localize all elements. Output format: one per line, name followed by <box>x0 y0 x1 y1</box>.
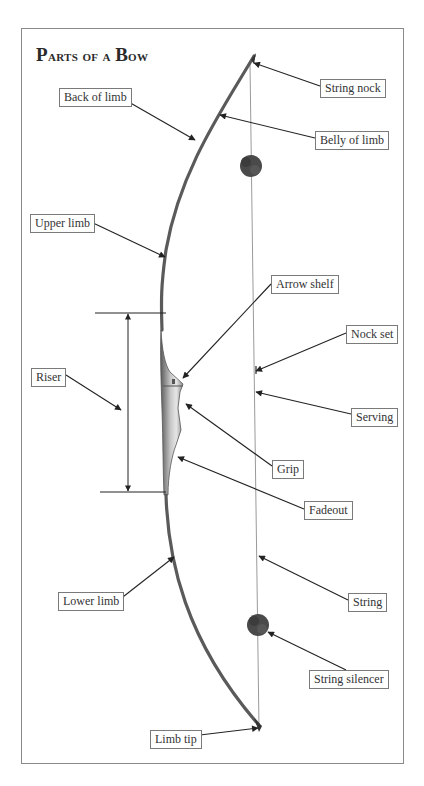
leader-serving <box>256 392 351 414</box>
label-grip: Grip <box>272 460 304 479</box>
label-string-silencer: String silencer <box>309 670 389 689</box>
leader-arrow-shelf <box>183 284 271 378</box>
label-string: String <box>348 593 387 612</box>
riser-span-indicator <box>95 313 166 492</box>
leader-string-nock <box>254 63 320 86</box>
arrow-rest-nub <box>172 379 175 384</box>
label-fadeout: Fadeout <box>304 501 353 520</box>
label-riser: Riser <box>31 368 66 387</box>
leader-arrows <box>66 63 351 735</box>
bow-diagram <box>0 0 424 786</box>
leader-string-silencer <box>268 632 346 670</box>
riser-shape <box>161 330 183 495</box>
label-upper-limb: Upper limb <box>30 214 95 233</box>
leader-belly-of-limb <box>220 115 315 138</box>
leader-upper-limb <box>91 222 165 257</box>
label-string-nock: String nock <box>320 79 386 98</box>
label-back-of-limb: Back of limb <box>59 88 132 107</box>
leader-limb-tip <box>200 728 258 735</box>
label-belly-of-limb: Belly of limb <box>315 131 389 150</box>
leader-lower-limb <box>119 557 174 600</box>
lower-limb-shape <box>166 495 258 724</box>
string-silencer-upper <box>240 155 262 177</box>
label-serving: Serving <box>351 408 398 427</box>
limb-tip-shape <box>254 718 262 732</box>
leader-string <box>259 556 348 600</box>
label-nock-set: Nock set <box>346 325 398 344</box>
leader-riser <box>66 375 121 410</box>
label-limb-tip: Limb tip <box>150 730 202 749</box>
leader-nock-set <box>256 333 346 371</box>
upper-limb-shape <box>161 56 254 330</box>
string-silencer-lower <box>247 614 269 636</box>
leader-grip <box>186 404 272 466</box>
label-lower-limb: Lower limb <box>58 592 124 611</box>
label-arrow-shelf: Arrow shelf <box>271 275 339 294</box>
